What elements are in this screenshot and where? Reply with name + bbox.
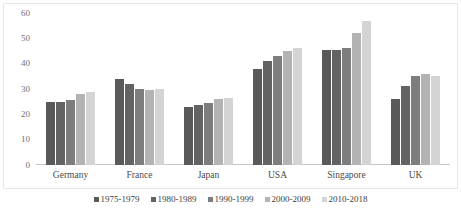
bar[interactable]: [342, 48, 351, 165]
y-axis-tick-label: 40: [21, 59, 30, 68]
bar-group: [46, 13, 95, 165]
bar-chart-figure: 0102030405060 GermanyFranceJapanUSASinga…: [0, 0, 461, 215]
bar[interactable]: [76, 94, 85, 165]
bar[interactable]: [204, 103, 213, 165]
legend-item[interactable]: 2000-2009: [265, 194, 311, 204]
bar[interactable]: [391, 99, 400, 165]
bar[interactable]: [135, 89, 144, 165]
bar-group: [391, 13, 440, 165]
legend-item[interactable]: 2010-2018: [322, 194, 368, 204]
y-axis-tick-label: 60: [21, 9, 30, 18]
bar[interactable]: [56, 102, 65, 165]
legend-label: 2000-2009: [272, 194, 311, 204]
y-axis-tick-label: 50: [21, 34, 30, 43]
legend-label: 1990-1999: [215, 194, 254, 204]
category-label: UK: [381, 168, 450, 184]
bar[interactable]: [66, 100, 75, 165]
bar-group: [322, 13, 371, 165]
category-label: Germany: [36, 168, 105, 184]
bar[interactable]: [283, 51, 292, 165]
category-label: Singapore: [312, 168, 381, 184]
legend-label: 2010-2018: [329, 194, 368, 204]
bar-groups: [36, 13, 450, 165]
bar[interactable]: [125, 84, 134, 165]
bar[interactable]: [184, 107, 193, 165]
bar[interactable]: [293, 48, 302, 165]
bar[interactable]: [421, 74, 430, 165]
legend-swatch-icon: [265, 197, 270, 202]
bar[interactable]: [155, 89, 164, 165]
bar-group: [115, 13, 164, 165]
legend-swatch-icon: [94, 197, 99, 202]
y-axis-tick-label: 10: [21, 135, 30, 144]
category-label: USA: [243, 168, 312, 184]
y-axis-tick-label: 30: [21, 85, 30, 94]
y-axis-tick-label: 20: [21, 110, 30, 119]
legend-swatch-icon: [208, 197, 213, 202]
legend-label: 1975-1979: [101, 194, 140, 204]
bar[interactable]: [46, 102, 55, 165]
legend-label: 1980-1989: [158, 194, 197, 204]
bar[interactable]: [431, 76, 440, 165]
legend-item[interactable]: 1980-1989: [151, 194, 197, 204]
bar[interactable]: [332, 50, 341, 165]
category-label: Japan: [174, 168, 243, 184]
bar-group: [253, 13, 302, 165]
bar[interactable]: [86, 92, 95, 165]
y-axis: 0102030405060: [0, 0, 36, 165]
bar[interactable]: [411, 76, 420, 165]
x-axis-category-labels: GermanyFranceJapanUSASingaporeUK: [36, 168, 450, 184]
chart-legend: 1975-19791980-19891990-19992000-20092010…: [0, 194, 461, 204]
bar[interactable]: [115, 79, 124, 165]
bar[interactable]: [362, 21, 371, 165]
bar[interactable]: [253, 69, 262, 165]
bar-group: [184, 13, 233, 165]
bar[interactable]: [145, 90, 154, 165]
bar[interactable]: [214, 99, 223, 165]
y-axis-tick-label: 0: [26, 161, 31, 170]
legend-item[interactable]: 1975-1979: [94, 194, 140, 204]
legend-swatch-icon: [322, 197, 327, 202]
bar[interactable]: [263, 61, 272, 165]
category-label: France: [105, 168, 174, 184]
bar[interactable]: [273, 56, 282, 165]
legend-swatch-icon: [151, 197, 156, 202]
legend-item[interactable]: 1990-1999: [208, 194, 254, 204]
bar[interactable]: [352, 33, 361, 165]
bar[interactable]: [401, 86, 410, 165]
bar[interactable]: [322, 50, 331, 165]
bar[interactable]: [194, 105, 203, 165]
bar[interactable]: [224, 98, 233, 165]
